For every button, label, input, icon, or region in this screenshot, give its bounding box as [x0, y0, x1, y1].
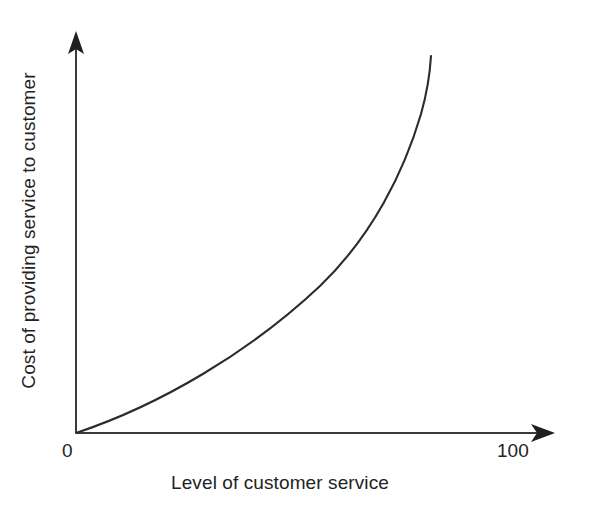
x-axis-tick-label-max: 100: [497, 441, 529, 460]
chart-figure: Cost of providing service to customer Le…: [0, 0, 596, 520]
y-axis-label: Cost of providing service to customer: [19, 72, 38, 388]
x-axis-tick-label-origin: 0: [62, 441, 73, 460]
y-axis-label-container: Cost of providing service to customer: [0, 0, 56, 460]
x-axis-label: Level of customer service: [0, 473, 560, 492]
cost-curve-line: [76, 56, 431, 433]
